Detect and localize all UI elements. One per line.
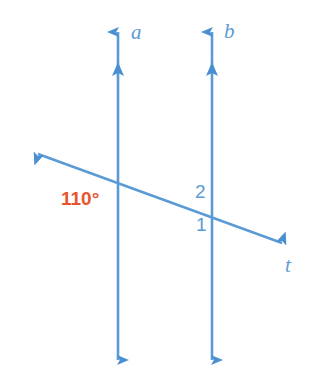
line-b-label: b [224, 21, 235, 42]
angle-2-label: 2 [195, 182, 206, 201]
geometry-diagram: a b t 110° 2 1 [0, 0, 316, 382]
angle-1-label: 1 [196, 215, 207, 234]
line-b-group [206, 32, 218, 360]
line-a-group [112, 32, 124, 360]
angle-measure-110-label: 110° [61, 189, 99, 208]
geometry-canvas [0, 0, 316, 382]
line-t-label: t [285, 255, 291, 276]
line-a-label: a [131, 22, 142, 43]
